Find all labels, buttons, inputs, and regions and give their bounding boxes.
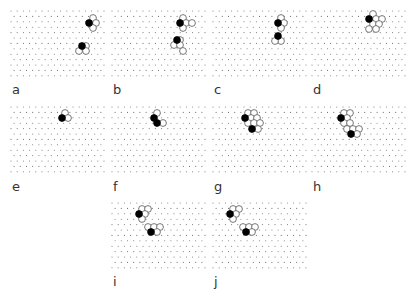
lattice-dot	[149, 139, 150, 140]
lattice-dot	[318, 64, 319, 65]
lattice-dot	[155, 21, 156, 22]
lattice-dot	[231, 54, 232, 55]
lattice-dot	[173, 224, 174, 225]
lattice-dot	[231, 21, 232, 22]
lattice-dot	[237, 54, 238, 55]
lattice-dot	[85, 171, 86, 172]
lattice-dot	[161, 256, 162, 257]
lattice-dot	[212, 43, 213, 44]
lattice-dot	[97, 171, 98, 172]
lattice-dot	[389, 27, 390, 28]
lattice-dot	[177, 155, 178, 156]
lattice-dot	[111, 43, 112, 44]
lattice-dot	[287, 75, 288, 76]
lattice-dot	[41, 171, 42, 172]
lattice-dot	[69, 112, 70, 113]
lattice-dot	[281, 75, 282, 76]
lattice-dot	[247, 59, 248, 60]
lattice-dot	[361, 43, 362, 44]
lattice-dot	[250, 64, 251, 65]
lattice-dot	[23, 150, 24, 151]
lattice-dot	[164, 144, 165, 145]
panel-label-b: b	[113, 83, 121, 96]
lattice-dot	[192, 256, 193, 257]
lattice-dot	[373, 64, 374, 65]
lattice-dot	[23, 171, 24, 172]
lattice-dot	[355, 10, 356, 11]
lattice-dot	[198, 128, 199, 129]
lattice-dot	[63, 37, 64, 38]
lattice-dot	[66, 75, 67, 76]
lattice-dot	[339, 48, 340, 49]
lattice-dot	[14, 70, 15, 71]
lattice-dot	[216, 70, 217, 71]
lattice-dot	[296, 240, 297, 241]
lattice-dot	[111, 21, 112, 22]
lattice-dot	[342, 54, 343, 55]
lattice-dot	[404, 54, 405, 55]
lattice-dot	[189, 219, 190, 220]
lattice-dot	[111, 128, 112, 129]
lattice-dot	[333, 155, 334, 156]
lattice-dot	[60, 54, 61, 55]
lattice-dot	[278, 48, 279, 49]
black-particle	[174, 37, 181, 44]
lattice-dot	[103, 139, 104, 140]
lattice-dot	[327, 16, 328, 17]
lattice-dot	[231, 10, 232, 11]
lattice-dot	[155, 160, 156, 161]
black-particle	[136, 211, 143, 218]
lattice-dot	[177, 229, 178, 230]
lattice-dot	[177, 70, 178, 71]
lattice-dot	[127, 166, 128, 167]
lattice-dot	[173, 64, 174, 65]
lattice-dot	[26, 70, 27, 71]
lattice-dot	[130, 267, 131, 268]
lattice-dot	[195, 123, 196, 124]
lattice-dot	[290, 240, 291, 241]
lattice-dot	[130, 246, 131, 247]
lattice-dot	[311, 43, 312, 44]
lattice-dot	[20, 133, 21, 134]
lattice-dot	[216, 262, 217, 263]
lattice-dot	[262, 10, 263, 11]
lattice-dot	[250, 43, 251, 44]
lattice-dot	[243, 21, 244, 22]
lattice-dot	[228, 59, 229, 60]
lattice-dot	[20, 70, 21, 71]
lattice-dot	[94, 144, 95, 145]
lattice-dot	[212, 75, 213, 76]
lattice-dot	[60, 139, 61, 140]
lattice-dot	[14, 16, 15, 17]
lattice-dot	[155, 43, 156, 44]
lattice-dot	[111, 106, 112, 107]
lattice-dot	[111, 256, 112, 257]
lattice-dot	[265, 48, 266, 49]
lattice-dot	[342, 43, 343, 44]
lattice-dot	[358, 144, 359, 145]
lattice-dot	[361, 139, 362, 140]
lattice-dot	[41, 160, 42, 161]
lattice-dot	[315, 16, 316, 17]
lattice-dot	[130, 202, 131, 203]
lattice-dot	[103, 150, 104, 151]
lattice-dot	[180, 75, 181, 76]
lattice-dot	[278, 240, 279, 241]
lattice-dot	[315, 144, 316, 145]
lattice-dot	[237, 235, 238, 236]
lattice-dot	[149, 128, 150, 129]
lattice-dot	[355, 139, 356, 140]
lattice-dot	[164, 70, 165, 71]
lattice-dot	[170, 70, 171, 71]
lattice-dot	[336, 21, 337, 22]
lattice-dot	[115, 59, 116, 60]
lattice-dot	[146, 27, 147, 28]
lattice-dot	[392, 139, 393, 140]
lattice-dot	[271, 123, 272, 124]
lattice-dot	[373, 171, 374, 172]
lattice-dot	[167, 43, 168, 44]
lattice-dot	[293, 64, 294, 65]
lattice-dot	[237, 246, 238, 247]
lattice-dot	[333, 27, 334, 28]
lattice-dot	[45, 59, 46, 60]
